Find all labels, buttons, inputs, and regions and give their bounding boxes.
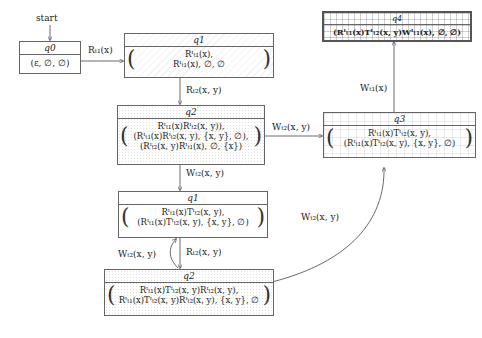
- state-tuple: () Rᴵₜ₁(x)Rᴵₜ₂(x, y)), (Rᴵₜ₁(x)Rᴵₜ₂(x, y…: [118, 119, 264, 153]
- tuple-line: Rᴵₜ₁(x),: [135, 49, 263, 59]
- tuple-line: (Rᴵₜ₁(x)Tᴵₜ₂(x, y), {x, y}, ∅): [129, 217, 257, 227]
- state-name: q0: [20, 42, 80, 55]
- state-q3[interactable]: q3 () Rᴵₜ₁(x)Tᴵₜ₂(x, y), (Rᴵₜ₁(x)Tᴵₜ₂(x,…: [323, 112, 476, 158]
- state-q2-bottom[interactable]: q2 () Rᴵₜ₁(x)Tᴵₜ₂(x, y)Rᴵₜ₂(x, y), Rᴵₜ₁(…: [104, 269, 274, 316]
- tuple-line: Rᴵₜ₁(x)Tᴵₜ₂(x, y)Rᴵₜ₂(x, y),: [115, 285, 263, 295]
- tuple-line: Rᴵₜ₁(x)Tᴵₜ₂(x, y),: [334, 128, 465, 138]
- state-q1-top[interactable]: q1 () Rᴵₜ₁(x), Rᴵₜ₁(x), ∅, ∅: [124, 33, 274, 78]
- start-label: start: [36, 13, 58, 23]
- state-name: q4: [324, 13, 470, 25]
- state-q1-mid[interactable]: q1 () Rᴵₜ₁(x)Tᴵₜ₂(x, y), (Rᴵₜ₁(x)Tᴵₜ₂(x,…: [118, 191, 268, 238]
- tuple-line: (Rᴵₜ₁(x)Tᴵₜ₂(x, y), {x, y}, ∅): [334, 138, 465, 148]
- edge-label-q2-q1: Wₜ₂(x, y): [186, 168, 224, 178]
- state-name: q2: [105, 270, 273, 283]
- tuple-line: Rᴵₜ₁(x), ∅, ∅: [135, 59, 263, 69]
- state-tuple: () Rᴵₜ₁(x), Rᴵₜ₁(x), ∅, ∅: [125, 47, 273, 71]
- edge-label-q1-q2-bottom: Rₜ₂(x, y): [186, 247, 222, 257]
- state-q0[interactable]: q0 (ε, ∅, ∅): [19, 41, 81, 74]
- edge-label-q2-q3-curve: Wₜ₂(x, y): [301, 212, 339, 222]
- tuple-line: (Rᴵₜ₂(x, y)Rᴵₜ₁(x), ∅, {x}): [128, 141, 254, 151]
- tuple-line: Rᴵₜ₁(x)Tᴵₜ₂(x, y)Rᴵₜ₂(x, y), {x, y}, ∅: [115, 295, 263, 305]
- edge-label-q0-q1: Rₜ₁(x): [88, 45, 113, 55]
- tuple-line: Rᴵₜ₁(x)Tᴵₜ₂(x, y),: [129, 207, 257, 217]
- state-tuple: () Rᴵₜ₁(x)Tᴵₜ₂(x, y)Rᴵₜ₂(x, y), Rᴵₜ₁(x)T…: [105, 283, 273, 307]
- tuple-line: Rᴵₜ₁(x)Rᴵₜ₂(x, y)),: [128, 121, 254, 131]
- tuple-line: (Rᴵₜ₁(x)Rᴵₜ₂(x, y), {x, y}, ∅),: [128, 131, 254, 141]
- state-tuple: () Rᴵₜ₁(x)Tᴵₜ₂(x, y), (Rᴵₜ₁(x)Tᴵₜ₂(x, y)…: [119, 205, 267, 229]
- state-q2-top[interactable]: q2 () Rᴵₜ₁(x)Rᴵₜ₂(x, y)), (Rᴵₜ₁(x)Rᴵₜ₂(x…: [117, 105, 265, 165]
- state-tuple: (Rᴵₜ₁(x)Tᴵₜ₂(x, y)Wᴵₜ₁(x), ∅, ∅): [324, 25, 470, 39]
- state-tuple: () Rᴵₜ₁(x)Tᴵₜ₂(x, y), (Rᴵₜ₁(x)Tᴵₜ₂(x, y)…: [324, 126, 475, 150]
- state-name: q1: [119, 192, 267, 205]
- state-q4-accepting[interactable]: q4 (Rᴵₜ₁(x)Tᴵₜ₂(x, y)Wᴵₜ₁(x), ∅, ∅): [322, 11, 472, 42]
- edge-label-q2-q1-back: Wₜ₂(x, y): [118, 249, 156, 259]
- state-name: q2: [118, 106, 264, 119]
- state-tuple: (ε, ∅, ∅): [20, 55, 80, 71]
- edge-label-q3-q4: Wₜ₁(x): [360, 83, 387, 93]
- state-name: q1: [125, 34, 273, 47]
- edge-label-q1-q2: Rₜ₂(x, y): [186, 85, 222, 95]
- edge-label-q2-q3: Wₜ₂(x, y): [272, 122, 310, 132]
- state-name: q3: [324, 113, 475, 126]
